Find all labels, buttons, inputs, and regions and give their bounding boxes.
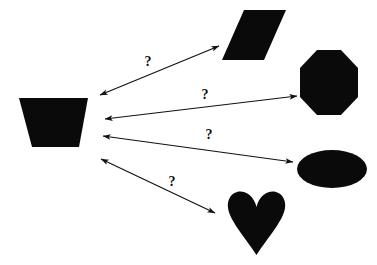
diagram-canvas: ? ? ? ?	[0, 0, 377, 265]
link-label-ellipse: ?	[206, 127, 213, 142]
shape-ellipse[interactable]	[297, 150, 367, 188]
link-label-parallelogram: ?	[145, 54, 152, 69]
link-label-octagon: ?	[202, 87, 209, 102]
shape-relation-diagram: ? ? ? ?	[0, 0, 377, 265]
shape-octagon[interactable]	[300, 50, 358, 115]
link-label-heart: ?	[169, 174, 176, 189]
